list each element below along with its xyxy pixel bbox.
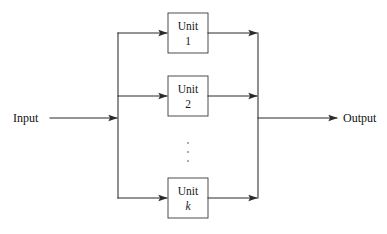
unit-1-index-label: 1 <box>185 35 191 47</box>
unit-k-group: Unit k <box>118 178 257 218</box>
input-label: Input <box>13 111 39 125</box>
unit-2-group: Unit 2 <box>118 76 257 116</box>
unit-1-name-label: Unit <box>178 20 199 32</box>
unit-k-name-label: Unit <box>178 185 199 197</box>
output-label: Output <box>343 111 377 125</box>
unit-k-index-label: k <box>185 200 191 212</box>
diagram-canvas: Input Unit 1 Unit 2 <box>0 0 387 234</box>
input-group: Input <box>13 111 117 125</box>
unit-1-box <box>168 13 208 53</box>
output-group: Output <box>258 111 377 125</box>
unit-2-index-label: 2 <box>185 98 191 110</box>
unit-2-box <box>168 76 208 116</box>
vertical-ellipsis-icon <box>187 142 189 162</box>
ellipsis-dot-3 <box>187 160 189 162</box>
ellipsis-dot-2 <box>187 151 189 153</box>
unit-k-box <box>168 178 208 218</box>
ellipsis-dot-1 <box>187 142 189 144</box>
unit-1-group: Unit 1 <box>118 13 257 53</box>
unit-2-name-label: Unit <box>178 83 199 95</box>
block-diagram-svg: Input Unit 1 Unit 2 <box>0 0 387 234</box>
